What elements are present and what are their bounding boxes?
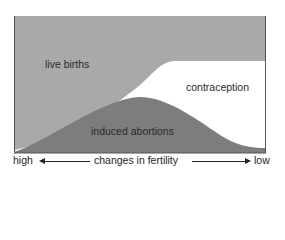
axis-high-label: high: [13, 154, 33, 166]
induced-abortions-label: induced abortions: [91, 125, 174, 137]
axis-low-label: low: [254, 154, 270, 166]
arrow-right-icon: [245, 158, 251, 164]
arrow-right-line: [192, 161, 246, 162]
axis-center-label: changes in fertility: [94, 154, 178, 166]
x-axis: high changes in fertility low: [13, 154, 269, 168]
arrow-left-line: [44, 161, 90, 162]
contraception-label: contraception: [186, 81, 249, 93]
live-births-label: live births: [45, 58, 89, 70]
